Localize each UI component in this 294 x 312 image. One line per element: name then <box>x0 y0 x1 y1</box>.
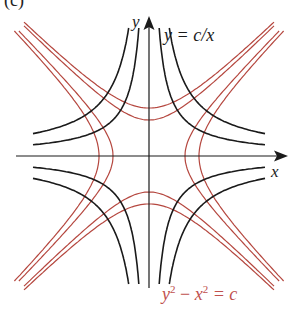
red-eq-rhs: = c <box>208 284 237 304</box>
red-eq-minus: − <box>176 284 195 304</box>
axes <box>16 24 280 288</box>
y-axis-label: y <box>132 13 140 30</box>
red-eq-x: x <box>195 284 203 304</box>
x-axis-label: x <box>271 163 279 180</box>
black-equation-label: y = c/x <box>164 26 214 44</box>
hyperbola-diagram <box>0 0 294 312</box>
red-eq-y: y <box>162 284 170 304</box>
red-equation-label: y2 − x2 = c <box>162 284 237 303</box>
